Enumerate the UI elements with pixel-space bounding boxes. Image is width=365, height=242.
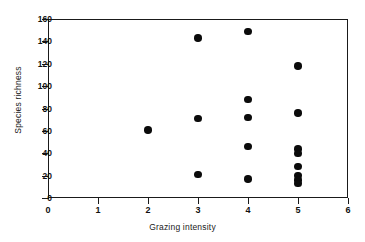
data-point (294, 109, 302, 117)
data-point (244, 143, 252, 151)
data-point (244, 96, 252, 104)
data-point (294, 150, 302, 158)
data-point (194, 115, 202, 123)
data-point (244, 114, 252, 122)
x-tick-mark (248, 198, 249, 204)
x-tick-label: 0 (33, 206, 63, 215)
x-tick-mark (348, 198, 349, 204)
y-axis-title: Species richness (13, 40, 23, 160)
x-tick-mark (198, 198, 199, 204)
x-tick-mark (98, 198, 99, 204)
data-point (194, 34, 202, 42)
x-tick-mark (298, 198, 299, 204)
data-point (294, 62, 302, 70)
data-point (244, 175, 252, 183)
scatter-plot-figure: 020406080100120140160 0123456 Grazing in… (0, 0, 365, 242)
y-tick-label: 20 (12, 172, 52, 181)
data-point (194, 171, 202, 179)
x-tick-label: 3 (183, 206, 213, 215)
x-axis-title: Grazing intensity (0, 222, 365, 232)
x-tick-label: 1 (83, 206, 113, 215)
x-tick-label: 4 (233, 206, 263, 215)
data-point (244, 28, 252, 36)
data-point (144, 126, 152, 134)
y-tick-label: 160 (12, 15, 52, 24)
x-tick-mark (148, 198, 149, 204)
y-tick-label: 0 (12, 194, 52, 203)
data-point (294, 180, 302, 188)
x-tick-label: 6 (333, 206, 363, 215)
x-tick-label: 2 (133, 206, 163, 215)
x-tick-label: 5 (283, 206, 313, 215)
